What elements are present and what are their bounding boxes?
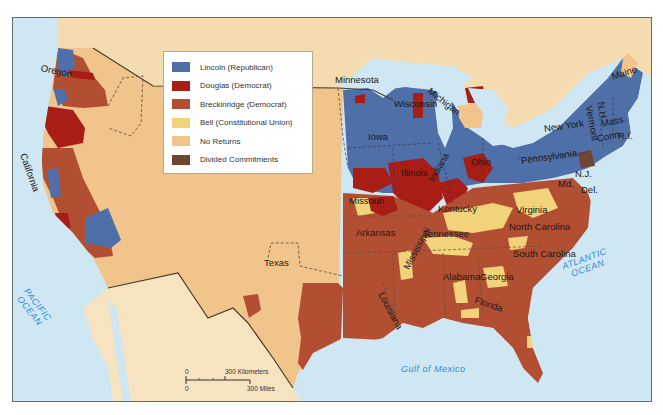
state-label: Md. [558,179,574,189]
state-label: Kentucky [438,204,477,214]
state-label: North Carolina [509,222,570,232]
scale-ruler [185,376,255,384]
scale-km-zero: 0 [185,368,189,375]
legend-item-lincoln: Lincoln (Republican) [172,58,304,77]
map-legend: Lincoln (Republican) Douglas (Democrat) … [163,51,313,174]
swatch-bell [172,118,190,128]
swatch-breckinridge [172,99,190,109]
legend-label: Douglas (Democrat) [200,81,272,90]
state-label: R.I. [618,131,633,141]
state-label: Missouri [349,196,384,206]
state-label: Texas [264,258,289,268]
map-graphic [13,18,652,402]
legend-label: Bell (Constitutional Union) [200,118,293,127]
legend-item-bell: Bell (Constitutional Union) [172,114,304,133]
state-label: Arkansas [356,228,396,238]
state-label: Georgia [480,272,514,282]
legend-item-breckinridge: Breckinridge (Democrat) [172,95,304,114]
legend-item-divided: Divided Commitments [172,151,304,170]
state-label: N.J. [575,169,592,179]
water-label: Gulf of Mexico [401,365,466,375]
state-label: Del. [581,185,598,195]
legend-label: Lincoln (Republican) [200,63,273,72]
legend-item-douglas: Douglas (Democrat) [172,77,304,96]
state-label: Alabama [443,272,481,282]
state-label: Iowa [368,132,388,142]
state-label: South Carolina [513,249,576,259]
legend-label: Divided Commitments [200,155,278,164]
legend-item-no-returns: No Returns [172,132,304,151]
state-label: Minnesota [335,75,379,85]
swatch-douglas [172,81,190,91]
swatch-no-returns [172,136,190,146]
scale-mi-label: 300 Miles [247,385,275,392]
legend-label: No Returns [200,137,240,146]
state-label: Wisconsin [394,99,437,109]
election-map: OregonCaliforniaTexasMinnesotaWisconsinM… [12,17,652,402]
scale-mi-zero: 0 [185,385,189,392]
state-label: Illinois [401,168,427,178]
swatch-lincoln [172,62,190,72]
state-label: Virginia [516,205,548,215]
scale-km-label: 300 Kilometers [225,368,268,375]
scale-bar: 0 300 Kilometers 0 300 Miles [185,368,285,398]
state-label: Ohio [471,157,491,167]
swatch-divided [172,155,190,165]
legend-label: Breckinridge (Democrat) [200,100,287,109]
